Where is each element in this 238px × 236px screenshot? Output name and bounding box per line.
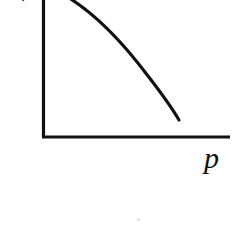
y-axis-label: v (18, 0, 30, 5)
x-axis-label: p (204, 143, 219, 173)
scan-speck (137, 218, 140, 221)
y-axis-label-clip: v (18, 0, 42, 5)
figure-canvas: p v (0, 0, 238, 236)
plot-svg (0, 0, 238, 236)
data-curve (66, 0, 179, 120)
